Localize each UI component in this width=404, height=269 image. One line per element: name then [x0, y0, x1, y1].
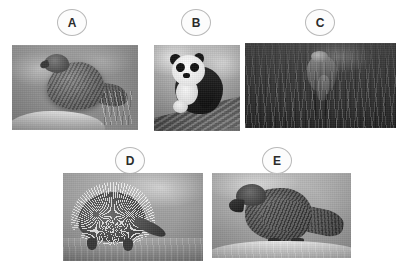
panel-photo-d: [63, 173, 203, 261]
panel-photo-b: [154, 45, 240, 131]
panda-nose-shape: [183, 73, 190, 78]
panel-photo-a: [12, 45, 138, 130]
echidna-spines-shape: [71, 182, 155, 245]
photo-e-scene: [212, 173, 351, 258]
panel-label-b: B: [181, 9, 211, 36]
rock-shape: [12, 111, 105, 130]
photo-c-scene: [245, 43, 396, 128]
panel-label-a: A: [57, 9, 87, 36]
grass-tuft-shape: [101, 91, 131, 125]
panda-paw-shape: [173, 100, 188, 113]
kea-wing-shape: [262, 200, 312, 231]
panel-photo-c: [245, 43, 396, 128]
tall-grass-shape: [245, 43, 396, 128]
photo-d-scene: [63, 173, 203, 261]
echidna-leg-left-shape: [87, 238, 97, 250]
kea-rock-shape: [212, 241, 351, 258]
panel-photo-e: [212, 173, 351, 258]
photo-a-scene: [12, 45, 138, 130]
panel-label-e: E: [262, 147, 292, 174]
animal-photo-figure: A B C: [0, 0, 404, 269]
photo-b-scene: [154, 45, 240, 131]
panel-label-d: D: [115, 147, 145, 174]
panel-label-c: C: [305, 9, 335, 36]
kea-beak-shape: [228, 198, 245, 212]
